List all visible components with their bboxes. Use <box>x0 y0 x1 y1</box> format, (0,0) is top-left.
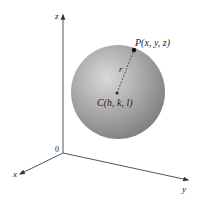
sphere-diagram: z x y 0 P(x, y, z) r C(h, k, l) <box>0 0 200 200</box>
x-axis <box>20 153 63 174</box>
point-c-label: C(h, k, l) <box>97 97 133 109</box>
y-axis-label: y <box>181 184 186 194</box>
radius-label: r <box>119 64 123 74</box>
y-axis <box>63 153 188 180</box>
x-axis-label: x <box>12 169 17 179</box>
point-p-label: P(x, y, z) <box>134 37 171 49</box>
z-axis-label: z <box>54 11 59 21</box>
center-point <box>115 91 118 94</box>
origin-label: 0 <box>55 145 59 154</box>
surface-point <box>132 48 136 52</box>
